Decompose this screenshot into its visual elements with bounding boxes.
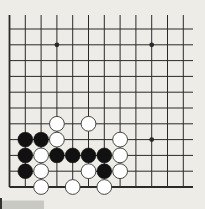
bottom-tab-mark: [0, 198, 2, 209]
white-stone: [97, 180, 112, 195]
black-stone: [18, 132, 33, 147]
white-stone: [113, 132, 128, 147]
white-stone: [65, 180, 80, 195]
white-stone: [34, 164, 49, 179]
star-point: [149, 137, 154, 142]
black-stone: [18, 164, 33, 179]
black-stone: [50, 148, 65, 163]
black-stone: [65, 148, 80, 163]
black-stone: [97, 164, 112, 179]
go-board[interactable]: [0, 0, 205, 209]
star-point: [55, 42, 60, 47]
white-stone: [50, 116, 65, 131]
white-stone: [34, 180, 49, 195]
white-stone: [34, 148, 49, 163]
black-stone: [97, 148, 112, 163]
star-point: [149, 42, 154, 47]
white-stone: [113, 148, 128, 163]
white-stone: [81, 116, 96, 131]
white-stone: [113, 164, 128, 179]
white-stone: [81, 164, 96, 179]
black-stone: [18, 148, 33, 163]
bottom-tab: [0, 200, 44, 209]
black-stone: [34, 132, 49, 147]
white-stone: [50, 132, 65, 147]
black-stone: [81, 148, 96, 163]
